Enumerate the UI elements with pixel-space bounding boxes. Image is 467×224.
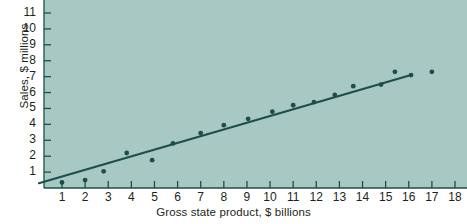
x-tick-label: 5 [143, 191, 165, 204]
x-tick-label: 11 [282, 191, 304, 204]
data-point-marker [246, 116, 251, 121]
x-tick-label: 2 [74, 191, 96, 204]
data-point-marker [83, 178, 88, 183]
y-tick-label: 4 [16, 117, 36, 130]
regression-line [39, 75, 411, 183]
data-point-marker [392, 69, 397, 74]
x-tick-label: 18 [444, 191, 466, 204]
y-tick-label: 11 [16, 6, 36, 19]
data-point-marker [429, 69, 434, 74]
data-point-marker [124, 151, 129, 156]
x-axis-ticks [62, 181, 455, 188]
data-point-marker [101, 169, 106, 174]
y-tick-label: 9 [16, 38, 36, 51]
y-tick-label: 5 [16, 101, 36, 114]
y-tick-label: 7 [16, 70, 36, 83]
data-point-marker [270, 109, 275, 114]
y-tick-label: 8 [16, 54, 36, 67]
x-tick-label: 4 [120, 191, 142, 204]
y-tick-label: 1 [16, 165, 36, 178]
x-tick-label: 16 [398, 191, 420, 204]
x-tick-label: 10 [259, 191, 281, 204]
x-tick-label: 17 [421, 191, 443, 204]
data-point-marker [379, 82, 384, 87]
y-tick-label: 10 [16, 22, 36, 35]
x-tick-label: 3 [97, 191, 119, 204]
data-point-marker [351, 84, 356, 89]
y-tick-label: 12 [16, 0, 36, 3]
x-tick-label: 7 [190, 191, 212, 204]
data-point-marker [291, 103, 296, 108]
data-point-marker [332, 93, 337, 98]
x-tick-label: 8 [213, 191, 235, 204]
x-tick-label: 15 [375, 191, 397, 204]
axis-lines [44, 0, 467, 188]
data-point-marker [150, 158, 155, 163]
y-tick-label: 3 [16, 133, 36, 146]
y-tick-label: 6 [16, 86, 36, 99]
x-tick-label: 14 [352, 191, 374, 204]
scatter-chart-figure: Sales, $ millions Gross state product, $… [0, 0, 467, 224]
data-point-marker [221, 123, 226, 128]
x-tick-label: 9 [236, 191, 258, 204]
x-tick-label: 6 [167, 191, 189, 204]
y-tick-label: 2 [16, 149, 36, 162]
x-tick-label: 13 [328, 191, 350, 204]
data-point-marker [409, 73, 414, 78]
regression-line-path [39, 75, 411, 183]
data-point-marker [312, 100, 317, 105]
data-point-marker [171, 141, 176, 146]
x-tick-label: 1 [51, 191, 73, 204]
data-point-marker [60, 180, 65, 185]
x-tick-label: 12 [305, 191, 327, 204]
data-point-marker [198, 131, 203, 136]
y-axis-ticks [44, 0, 51, 172]
data-point-markers [60, 69, 435, 184]
